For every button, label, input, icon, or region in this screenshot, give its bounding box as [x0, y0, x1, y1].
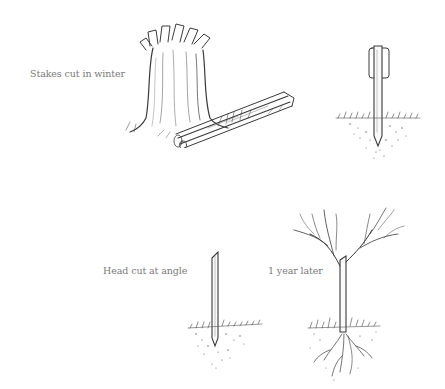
stake-in-ground-illustration — [330, 40, 425, 165]
stake-head-cut-illustration — [182, 246, 272, 376]
rooted-tree-illustration — [290, 200, 420, 385]
caption-stakes-cut-in-winter: Stakes cut in winter — [30, 68, 125, 79]
pollarded-stump-illustration — [118, 18, 303, 148]
caption-head-cut-at-angle: Head cut at angle — [103, 265, 187, 276]
